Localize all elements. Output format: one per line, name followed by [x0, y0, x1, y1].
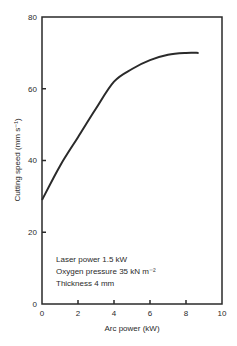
svg-text:Laser power 1.5 kW: Laser power 1.5 kW: [56, 255, 128, 264]
svg-text:2: 2: [76, 309, 81, 318]
x-tick-labels: 0 2 4 6 8 10: [40, 309, 227, 318]
svg-text:4: 4: [112, 309, 117, 318]
chart: 0 20 40 60 80 0 2 4 6 8 10 Arc power (kW…: [0, 0, 237, 346]
svg-text:Thickness 4 mm: Thickness 4 mm: [56, 279, 115, 288]
y-tick-labels: 0 20 40 60 80: [28, 13, 37, 309]
svg-text:20: 20: [28, 228, 37, 237]
x-axis-label: Arc power (kW): [104, 324, 159, 333]
annotation-block: Laser power 1.5 kW Oxygen pressure 35 kN…: [56, 255, 156, 288]
data-line: [42, 53, 199, 200]
svg-text:10: 10: [218, 309, 227, 318]
svg-text:Oxygen pressure 35 kN m⁻²: Oxygen pressure 35 kN m⁻²: [56, 267, 156, 276]
y-axis-label: Cutting speed (mm s⁻¹): [13, 118, 22, 201]
svg-text:60: 60: [28, 85, 37, 94]
svg-text:8: 8: [184, 309, 189, 318]
svg-text:0: 0: [40, 309, 45, 318]
svg-text:40: 40: [28, 156, 37, 165]
svg-text:6: 6: [148, 309, 153, 318]
svg-text:0: 0: [33, 300, 38, 309]
svg-text:80: 80: [28, 13, 37, 22]
